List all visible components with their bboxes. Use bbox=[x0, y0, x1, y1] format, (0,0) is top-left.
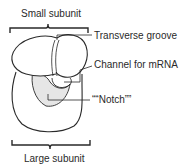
large-subunit-label: Large subunit bbox=[24, 153, 85, 164]
channel-mrna-label: Channel for mRNA bbox=[94, 59, 178, 70]
small-subunit-left-lobe bbox=[12, 36, 57, 76]
small-subunit-label: Small subunit bbox=[21, 8, 81, 19]
small-subunit-bracket bbox=[10, 24, 88, 33]
large-subunit-bracket bbox=[12, 140, 90, 149]
transverse-groove-label: Transverse groove bbox=[94, 30, 177, 41]
small-subunit-right-lobe bbox=[56, 35, 87, 77]
notch-label: ““Notch”” bbox=[92, 94, 131, 105]
ribosome-diagram bbox=[0, 0, 192, 167]
